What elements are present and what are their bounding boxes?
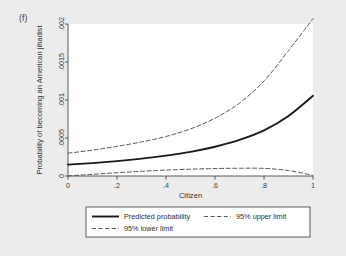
x-axis-tick-label: .2: [114, 181, 120, 190]
figure-container: (f) 0.0005.001.0015.0020.2.4.6.81Citizen…: [0, 0, 346, 256]
x-axis-tick-label: .4: [163, 181, 169, 190]
legend-label-1[interactable]: 95% upper limit: [236, 212, 286, 221]
y-axis-tick-label: .001: [57, 93, 66, 107]
chart-canvas: 0.0005.001.0015.0020.2.4.6.81CitizenProb…: [0, 0, 346, 256]
x-axis-title: Citizen: [179, 191, 202, 200]
y-axis-title: Probability of becoming an American jiha…: [35, 25, 44, 175]
legend-label-0[interactable]: Predicted probability: [124, 212, 190, 221]
y-axis-tick-label: .0015: [57, 53, 66, 71]
y-axis-tick-label: 0: [57, 174, 66, 178]
y-axis-tick-label: .0005: [57, 129, 66, 147]
plot-background: [68, 24, 313, 176]
x-axis-tick-label: 0: [66, 181, 70, 190]
y-axis-tick-label: .002: [57, 17, 66, 31]
x-axis-tick-label: 1: [311, 181, 315, 190]
legend-label-2[interactable]: 95% lower limit: [124, 224, 173, 233]
x-axis-tick-label: .6: [212, 181, 218, 190]
x-axis-tick-label: .8: [261, 181, 267, 190]
